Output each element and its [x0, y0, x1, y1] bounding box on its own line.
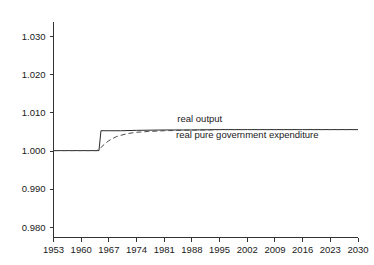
- x-tick-label: 1953: [43, 244, 64, 255]
- x-tick-label: 1960: [71, 244, 92, 255]
- y-tick-label: 1.000: [22, 145, 46, 156]
- y-tick-label: 0.980: [22, 222, 46, 233]
- chart-plot-area: 1.0301.0201.0101.0000.9900.980 195319601…: [0, 0, 374, 265]
- y-tick-label: 1.020: [22, 69, 46, 80]
- y-tick-label: 1.010: [22, 107, 46, 118]
- y-tick-label: 1.030: [22, 31, 46, 42]
- x-tick-label: 2009: [264, 244, 285, 255]
- y-tick-labels-group: 1.0301.0201.0101.0000.9900.980: [22, 31, 46, 233]
- x-tick-marks-group: [54, 238, 359, 242]
- x-tick-labels-group: 1953196019671974198119881995200220092016…: [43, 244, 369, 255]
- series-annotations-group: real outputreal pure government expendit…: [176, 113, 319, 140]
- real-output-label: real output: [177, 113, 222, 124]
- y-tick-marks-group: [50, 37, 54, 228]
- x-tick-label: 2002: [237, 244, 258, 255]
- x-tick-label: 2016: [292, 244, 313, 255]
- chart-figure: 1.0301.0201.0101.0000.9900.980 195319601…: [0, 0, 374, 265]
- x-tick-label: 1995: [209, 244, 230, 255]
- real-pure-government-expenditure-label: real pure government expenditure: [176, 129, 319, 140]
- y-tick-label: 0.990: [22, 183, 46, 194]
- x-tick-label: 1981: [154, 244, 175, 255]
- x-tick-label: 1967: [98, 244, 119, 255]
- x-tick-label: 1988: [181, 244, 202, 255]
- x-tick-label: 2023: [320, 244, 341, 255]
- x-tick-label: 1974: [126, 244, 147, 255]
- x-tick-label: 2030: [347, 244, 368, 255]
